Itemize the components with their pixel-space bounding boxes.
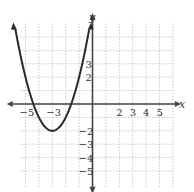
x-axis-label: x xyxy=(179,98,186,111)
x-tick-label: 3 xyxy=(130,107,136,118)
grid xyxy=(20,24,173,187)
y-tick-label: 2 xyxy=(86,72,92,83)
x-tick-label: −5 xyxy=(20,107,35,118)
y-axis-label: y xyxy=(88,11,96,24)
x-tick-label: −3 xyxy=(46,107,61,118)
x-tick-label: 4 xyxy=(143,107,149,118)
y-tick-label: −5 xyxy=(79,166,94,177)
y-tick-label: 3 xyxy=(86,59,92,70)
y-tick-label: −3 xyxy=(79,139,94,150)
y-tick-label: −4 xyxy=(79,153,94,164)
x-tick-label: 5 xyxy=(157,107,163,118)
y-tick-label: −2 xyxy=(79,126,94,137)
parabola-chart: −5−3234532−2−3−4−5 x y xyxy=(0,0,194,192)
x-tick-label: 2 xyxy=(116,107,122,118)
